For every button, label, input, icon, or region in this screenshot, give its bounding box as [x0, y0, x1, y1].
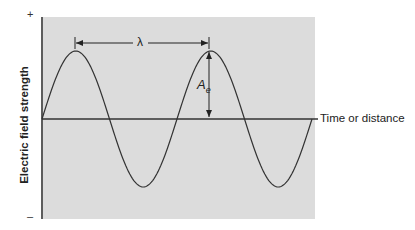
y-axis-label: Electric field strength [18, 66, 30, 184]
amplitude-symbol: A [197, 77, 206, 92]
wavelength-label: λ [134, 35, 146, 49]
amplitude-subscript: e [206, 85, 211, 95]
amplitude-label: Ae [197, 77, 211, 95]
y-axis-plus-marker: + [27, 8, 33, 20]
x-axis-label: Time or distance [320, 112, 405, 124]
wave-diagram: + – Electric field strength Time or dist… [0, 0, 415, 230]
y-axis-minus-marker: – [27, 210, 33, 222]
